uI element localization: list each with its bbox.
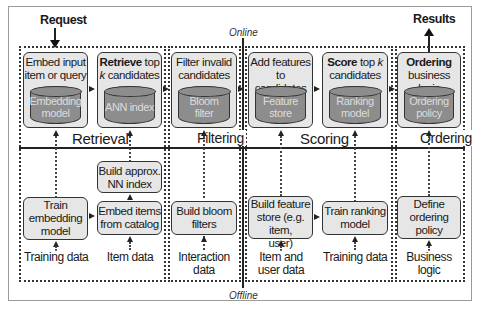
connector-dotted [129, 136, 131, 162]
results-label: Results [413, 13, 455, 26]
input-business-logic: Businesslogic [398, 251, 460, 277]
online-offline-divider [242, 38, 244, 288]
offline-label: Offline [229, 290, 258, 301]
arrow-up-icon [127, 194, 133, 200]
stage-scoring: Scoring [298, 130, 351, 147]
input-interaction-data: Interactiondata [172, 251, 236, 277]
retrieve-box: Retrieve topk candidates ANN index [97, 52, 162, 128]
arrow-up-icon [201, 236, 207, 242]
connector-dotted [280, 136, 282, 196]
online-offline-horizontal-line [19, 147, 465, 149]
embed-items-box: Embed itemsfrom catalog [97, 201, 162, 235]
arrow-right-icon [163, 86, 169, 92]
connector-dotted [203, 136, 205, 198]
arrow-right-icon [314, 214, 320, 220]
arrow-up-icon [127, 130, 133, 136]
input-training-data: Training data [24, 251, 88, 264]
train-ranking-box: Train rankingmodel [322, 201, 388, 235]
embedding-model-store: Embeddingmodel [30, 86, 81, 124]
connector-dotted [129, 242, 131, 250]
ann-index-store: ANN index [104, 86, 155, 124]
arrow-up-icon [53, 130, 59, 136]
arrow-up-icon [352, 130, 358, 136]
arrow-right-icon [389, 86, 395, 92]
stage-retrieval: Retrieval [70, 130, 131, 147]
online-label: Online [229, 27, 258, 38]
arrow-up-icon [278, 130, 284, 136]
arrow-right-icon [238, 86, 244, 92]
score-box: Score top kcandidates Rankingmodel [322, 52, 388, 128]
filter-box: Filter invalidcandidates Bloom filter [171, 52, 237, 128]
connector-dotted [354, 136, 356, 202]
build-feature-store-box: Build featurestore (e.g. item,user) [248, 196, 313, 239]
build-ann-box: Build approx.NN index [97, 161, 162, 193]
embed-input-line1: Embed input [25, 56, 85, 68]
connector-dotted [428, 136, 430, 196]
arrow-right-icon [314, 86, 320, 92]
train-embedding-box: Trainembeddingmodel [23, 197, 88, 240]
arrow-right-icon [89, 86, 95, 92]
ranking-model-store: Rankingmodel [329, 86, 381, 124]
ordering-box: Orderingbusiness logic Orderingpolicy [397, 52, 461, 128]
arrow-up-icon [426, 130, 432, 136]
request-label: Request [40, 14, 87, 27]
connector-dotted [55, 136, 57, 198]
input-item-user-data: Item anduser data [249, 251, 313, 277]
embed-input-line2: item or query [25, 69, 87, 81]
build-bloom-box: Build bloomfilters [171, 201, 237, 235]
bloom-filter-store: Bloom filter [178, 86, 230, 124]
arrow-up-icon [201, 130, 207, 136]
define-ordering-box: Defineorderingpolicy [397, 196, 461, 239]
ordering-policy-store: Orderingpolicy [404, 86, 454, 124]
input-training-data-2: Training data [323, 251, 387, 264]
input-item-data: Item data [98, 251, 162, 264]
feature-store: Featurestore [255, 86, 306, 124]
arrow-right-icon [89, 213, 95, 219]
connector-dotted [354, 242, 356, 250]
embed-input-box: Embed inputitem or query Embeddingmodel [23, 52, 88, 128]
add-features-box: Add featuresto candidates Featurestore [248, 52, 313, 128]
